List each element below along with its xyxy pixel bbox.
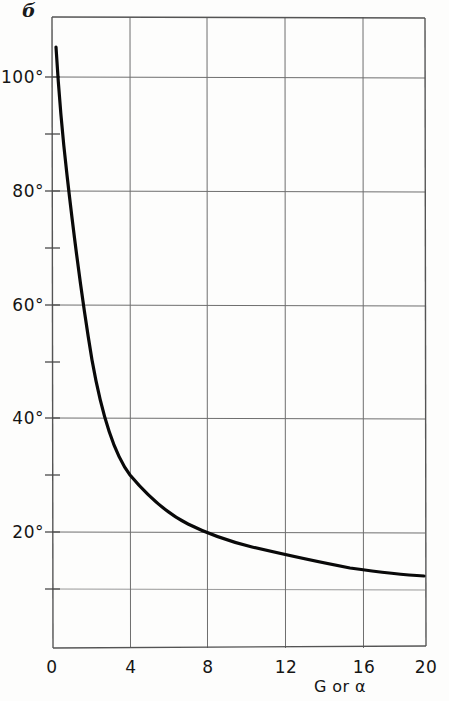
x-tick-label-20: 20 <box>415 657 438 677</box>
gridline-x-4 <box>130 17 131 648</box>
y-tick-label-80: 80° <box>0 181 44 201</box>
gridline-y-40 <box>52 418 425 419</box>
vertical-gridlines <box>130 17 364 648</box>
data-curve-line <box>56 47 424 576</box>
gridline-x-16 <box>363 17 364 648</box>
x-tick-label-8: 8 <box>202 657 213 677</box>
frame-left <box>52 17 53 648</box>
x-tick-label-16: 16 <box>353 657 376 677</box>
frame-top <box>52 17 425 18</box>
y-tick-label-20: 20° <box>0 522 44 542</box>
frame-right <box>425 18 426 646</box>
y-tick-label-40: 40° <box>0 408 44 428</box>
gridline-y-80 <box>52 191 425 192</box>
x-axis-title: G or α <box>314 677 366 696</box>
gridline-y-10 <box>52 589 425 590</box>
plot-area <box>0 0 449 701</box>
frame-bottom <box>53 646 426 648</box>
gridline-x-8 <box>207 17 208 648</box>
horizontal-gridlines <box>52 77 425 590</box>
gridline-y-100 <box>52 77 425 78</box>
x-tick-label-0: 0 <box>46 657 57 677</box>
gridline-y-60 <box>52 305 425 306</box>
y-tick-label-60: 60° <box>0 295 44 315</box>
y-tick-label-100: 100° <box>0 67 44 87</box>
x-tick-label-4: 4 <box>125 657 136 677</box>
axis-frame <box>52 17 426 648</box>
gridline-y-20 <box>52 532 425 533</box>
x-tick-label-12: 12 <box>275 657 298 677</box>
figure-canvas: б <box>0 0 449 701</box>
